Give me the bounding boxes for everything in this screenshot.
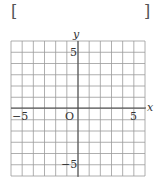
y-tick-neg5: −5 bbox=[61, 158, 77, 171]
x-axis-label: x bbox=[147, 101, 154, 114]
y-axis-label: y bbox=[72, 28, 80, 41]
coordinate-grid: x y O −5 5 5 −5 bbox=[0, 0, 163, 187]
y-tick-pos5: 5 bbox=[70, 46, 77, 59]
origin-label: O bbox=[65, 110, 74, 123]
x-tick-pos5: 5 bbox=[130, 110, 137, 123]
x-tick-neg5: −5 bbox=[12, 110, 28, 123]
